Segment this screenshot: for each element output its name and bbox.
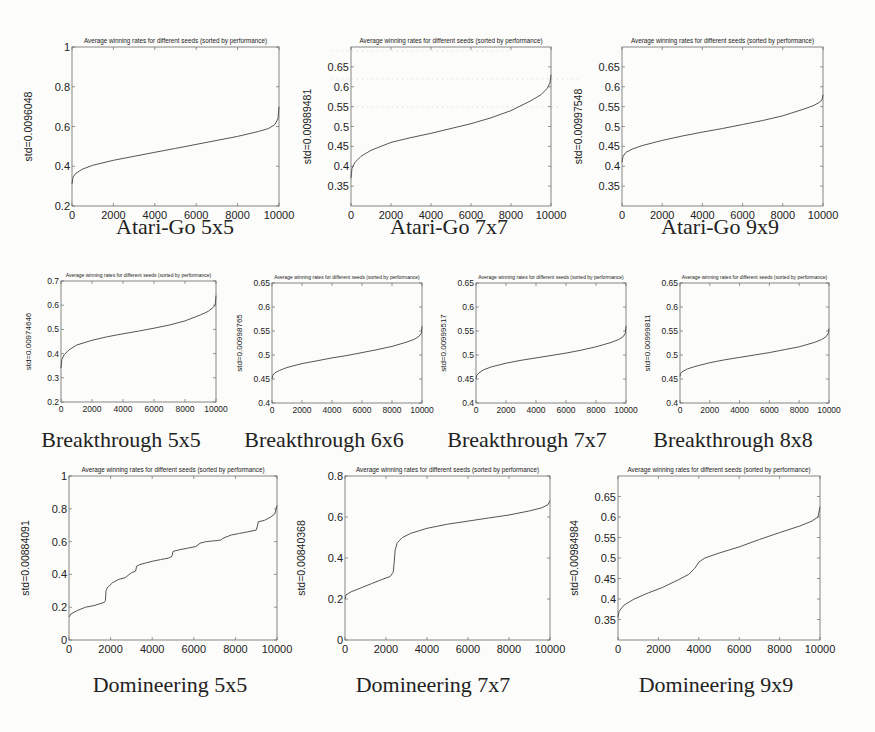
y-tick-label: 0.55 xyxy=(595,532,616,544)
y-tick-label: 0.4 xyxy=(601,593,616,605)
x-tick-label: 4000 xyxy=(687,643,711,655)
chart-title: Average winning rates for different seed… xyxy=(627,466,810,474)
data-series-line xyxy=(618,507,820,618)
y-tick-label: 0.65 xyxy=(595,491,616,503)
y-tick-label: 0.45 xyxy=(595,573,616,585)
y-axis-label: std=0.00984984 xyxy=(568,520,580,596)
y-tick-label: 0.35 xyxy=(595,614,616,626)
x-tick-label: 6000 xyxy=(727,643,751,655)
y-tick-label: 0.5 xyxy=(601,552,616,564)
chart-domineering-9x9: Average winning rates for different seed… xyxy=(0,0,875,732)
x-tick-label: 8000 xyxy=(767,643,791,655)
caption-domineering-9x9: Domineering 9x9 xyxy=(639,672,794,698)
x-tick-label: 2000 xyxy=(646,643,670,655)
y-tick-label: 0.6 xyxy=(601,511,616,523)
plot-frame xyxy=(618,476,820,640)
plot: Average winning rates for different seed… xyxy=(0,0,875,732)
x-tick-label: 0 xyxy=(615,643,621,655)
x-tick-label: 10000 xyxy=(805,643,836,655)
